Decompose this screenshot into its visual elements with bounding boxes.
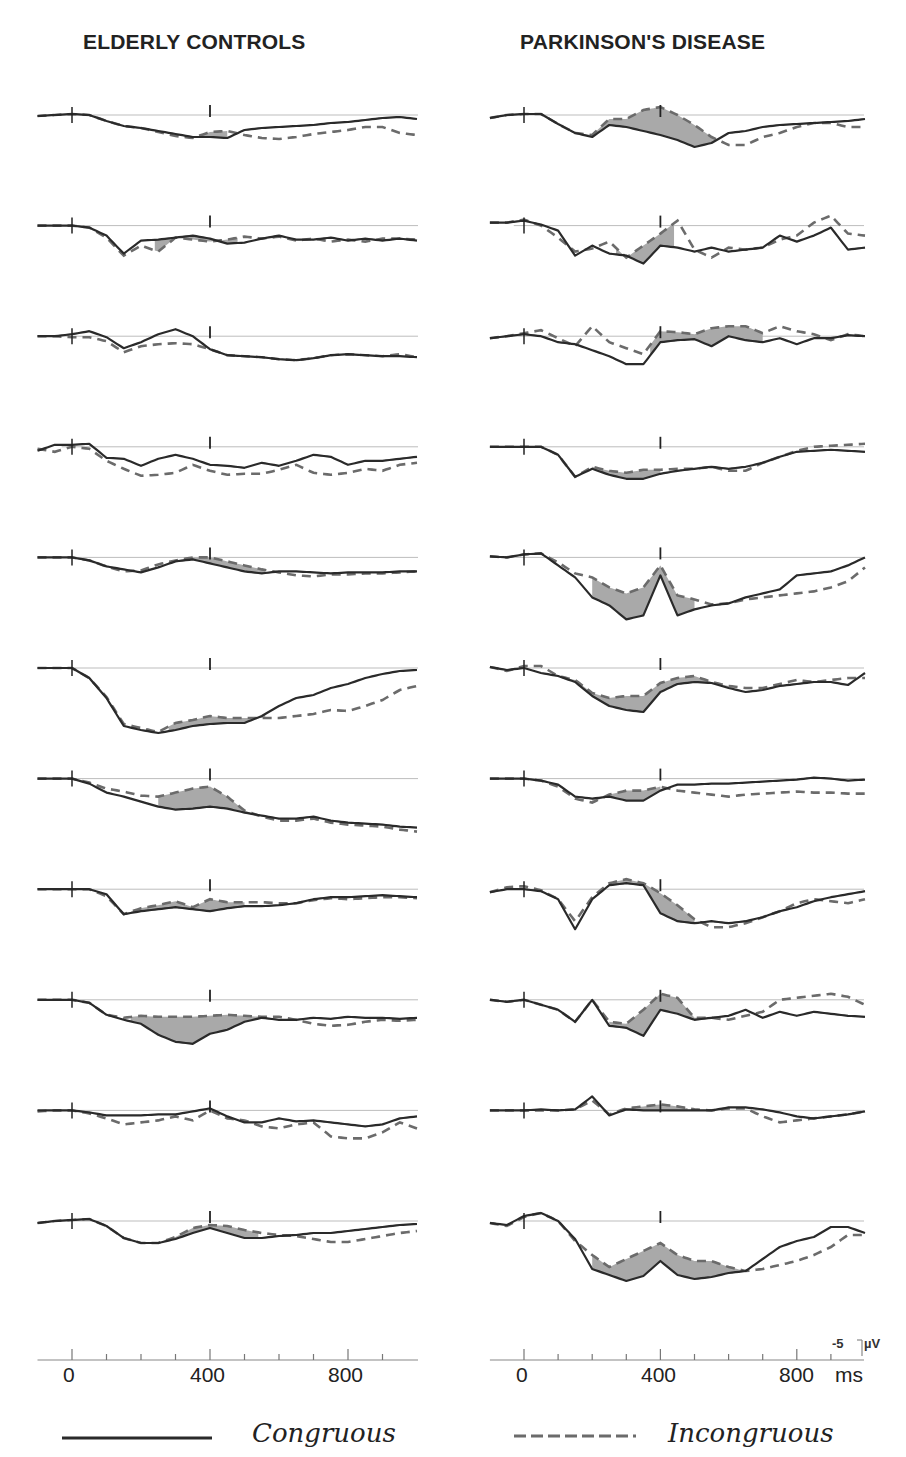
incongruous-trace xyxy=(38,1110,418,1138)
waveform-row xyxy=(38,658,419,733)
waveform-row xyxy=(490,326,865,364)
erp-waveform-plot xyxy=(0,0,906,1457)
waveform-row xyxy=(490,105,865,147)
waveform-row xyxy=(490,1096,865,1122)
time-unit-label: ms xyxy=(835,1363,863,1387)
waveform-row xyxy=(490,216,865,264)
waveform-row xyxy=(38,547,419,576)
scale-bar-value: -5 xyxy=(832,1336,844,1351)
congruous-trace xyxy=(38,444,418,468)
right-axis-tick-800: 800 xyxy=(779,1363,814,1387)
time-axis xyxy=(490,1349,864,1360)
voltage-scale-bar xyxy=(857,1340,862,1356)
waveform-row xyxy=(38,105,419,139)
right-axis-tick-400: 400 xyxy=(641,1363,676,1387)
waveform-row xyxy=(38,437,419,476)
voltage-unit-label: µV xyxy=(864,1336,880,1351)
incongruous-trace xyxy=(38,336,418,360)
waveform-row xyxy=(490,1211,865,1281)
incongruous-trace xyxy=(38,889,418,914)
waveform-row xyxy=(490,879,865,929)
waveform-row xyxy=(490,769,865,803)
waveform-row xyxy=(490,990,865,1036)
congruous-trace xyxy=(38,668,418,733)
waveform-row xyxy=(38,216,419,256)
waveform-row xyxy=(490,437,865,479)
legend-incongruous-label: Incongruous xyxy=(668,1418,834,1448)
difference-shading xyxy=(592,565,694,619)
waveform-row xyxy=(38,990,419,1044)
congruous-trace xyxy=(490,447,865,479)
congruous-trace xyxy=(38,1108,418,1126)
congruous-trace xyxy=(38,329,418,360)
waveform-row xyxy=(38,769,419,832)
left-axis-tick-0: 0 xyxy=(63,1363,75,1387)
waveform-row xyxy=(38,1100,419,1138)
waveform-row xyxy=(490,658,865,712)
congruous-trace xyxy=(490,778,865,801)
left-axis-tick-400: 400 xyxy=(190,1363,225,1387)
waveform-row xyxy=(38,879,419,914)
time-axis xyxy=(38,1349,419,1360)
waveform-row xyxy=(490,547,865,619)
legend-congruous-label: Congruous xyxy=(252,1418,396,1448)
congruous-trace xyxy=(490,667,865,712)
waveform-row xyxy=(38,326,419,360)
right-axis-tick-0: 0 xyxy=(516,1363,528,1387)
waveform-row xyxy=(38,1211,419,1243)
left-axis-tick-800: 800 xyxy=(328,1363,363,1387)
